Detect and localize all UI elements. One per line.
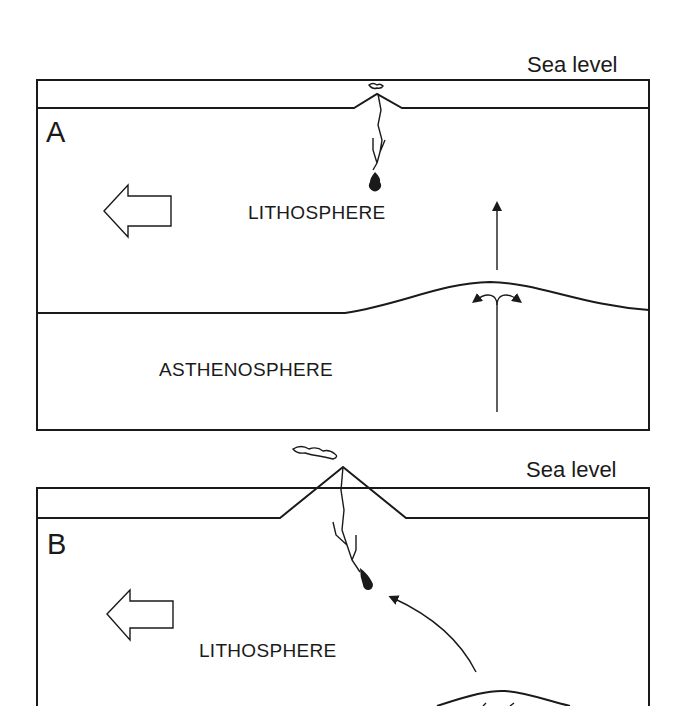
panel-b-magma-chamber xyxy=(360,568,373,590)
panel-a-flow-right-arrow xyxy=(497,295,518,305)
panel-b-lithosphere-label: LITHOSPHERE xyxy=(199,641,336,660)
panel-a-magma-chamber xyxy=(369,172,381,191)
panel-a-lithosphere-base xyxy=(37,282,649,313)
panel-a-lithosphere-label: LITHOSPHERE xyxy=(248,203,385,222)
panel-b-letter: B xyxy=(47,530,66,559)
panel-b-magma-conduit xyxy=(333,467,360,572)
panel-a-flow-left-arrow xyxy=(476,295,497,305)
diagram-canvas xyxy=(0,0,681,706)
panel-a-magma-conduit xyxy=(373,94,385,170)
panel-a-plate-motion-arrow-icon xyxy=(104,185,171,237)
panel-a-frame xyxy=(37,80,649,430)
panel-a-letter: A xyxy=(46,118,65,147)
panel-b-curved-arrow xyxy=(393,598,476,672)
panel-a-asthenosphere-label: ASTHENOSPHERE xyxy=(159,360,333,379)
panel-b-asthenosphere-bulge xyxy=(437,691,570,706)
panel-b-sea-level-label: Sea level xyxy=(526,459,617,481)
panel-b-plume-icon xyxy=(293,447,337,460)
panel-b xyxy=(37,447,649,706)
panel-a-seafloor-with-volcano xyxy=(37,94,649,108)
panel-a xyxy=(37,80,649,430)
panel-a-plume-icon xyxy=(369,84,383,89)
panel-a-sea-level-label: Sea level xyxy=(527,54,618,76)
panel-b-plate-motion-arrow-icon xyxy=(107,590,173,640)
